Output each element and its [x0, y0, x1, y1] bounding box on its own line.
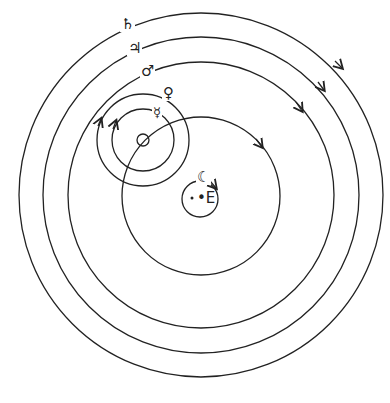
mercury-orbit	[112, 109, 174, 171]
jupiter-arrow-icon	[318, 82, 324, 90]
orbit-diagram	[0, 0, 390, 403]
saturn-arrow-icon	[335, 61, 342, 68]
moon-symbol: ☾	[196, 170, 211, 185]
sun	[137, 134, 149, 146]
venus-symbol: ♀	[162, 86, 175, 101]
venus-orbit	[97, 94, 189, 186]
earth-dot	[191, 197, 194, 200]
earth-label: •E	[196, 191, 216, 206]
mercury-symbol: ☿	[152, 106, 162, 119]
jupiter-symbol: ♃	[127, 41, 142, 56]
saturn-symbol: ♄	[120, 17, 135, 32]
mars-symbol: ♂	[140, 64, 155, 79]
sun-arrow-icon	[256, 139, 262, 147]
